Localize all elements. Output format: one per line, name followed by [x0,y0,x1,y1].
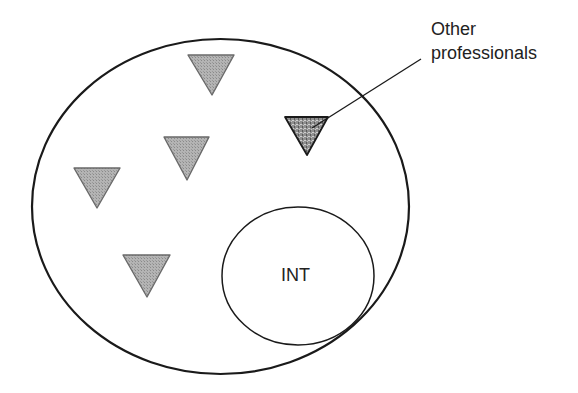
professional-triangle-icon [188,55,234,95]
other-professionals-label: Other professionals [431,17,537,65]
callout-line-one: Other [431,17,537,41]
professional-triangle-icon [164,137,209,180]
callout-line-two: professionals [431,41,537,65]
int-set-label: INT [281,263,310,287]
professional-triangle-icon [74,168,120,208]
professional-triangle-icon [123,255,170,297]
